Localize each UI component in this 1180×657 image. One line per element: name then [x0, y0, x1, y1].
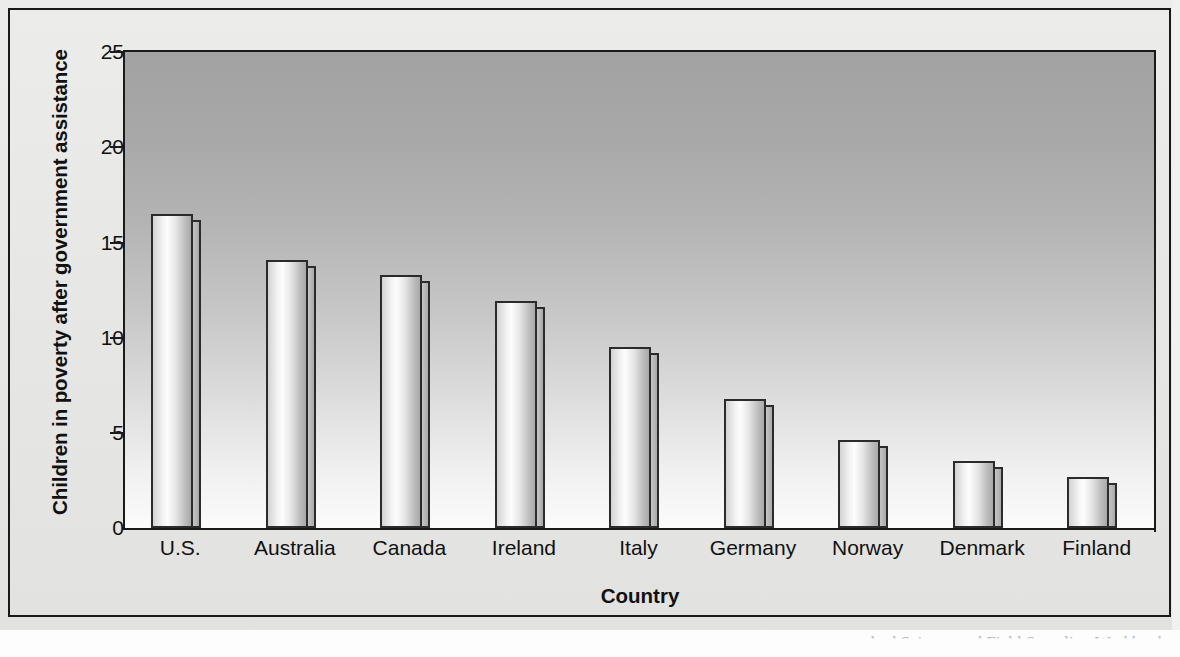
bar-group-ireland	[469, 52, 584, 528]
bar-group-australia	[240, 52, 355, 528]
x-axis-title: Country	[120, 584, 1160, 608]
bar-group-denmark	[927, 52, 1042, 528]
bar	[266, 260, 308, 528]
y-tick-mark-25	[110, 51, 123, 53]
bar-group-germany	[698, 52, 813, 528]
bar	[609, 347, 651, 528]
bar-group-norway	[812, 52, 927, 528]
bar	[1067, 477, 1109, 528]
plot-area	[123, 50, 1154, 530]
y-tick-mark-10	[110, 337, 123, 339]
bar-group-finland	[1041, 52, 1156, 528]
bar-series	[125, 52, 1154, 528]
bar	[838, 440, 880, 528]
bar-group-us	[125, 52, 240, 528]
caption-strip: hod Science and Field Sampling Workbook	[0, 630, 1180, 657]
figure-container: Children in poverty after government ass…	[0, 0, 1180, 657]
y-tick-mark-5	[110, 432, 123, 434]
bar	[953, 461, 995, 528]
y-tick-mark-20	[110, 146, 123, 148]
x-tick-label-finland: Finland	[1017, 536, 1177, 560]
bar-group-italy	[583, 52, 698, 528]
y-tick-mark-15	[110, 242, 123, 244]
bar	[724, 399, 766, 528]
bar	[495, 301, 537, 528]
caption-text: hod Science and Field Sampling Workbook	[0, 633, 1180, 653]
bar-group-canada	[354, 52, 469, 528]
bar	[151, 214, 193, 528]
y-axis-title: Children in poverty after government ass…	[48, 32, 72, 532]
bar	[380, 275, 422, 528]
